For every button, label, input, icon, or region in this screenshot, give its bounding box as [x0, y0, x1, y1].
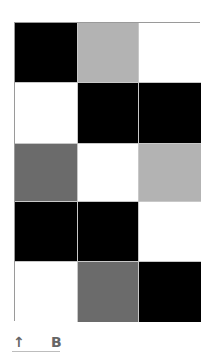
grid-cell-4-1[interactable] [78, 262, 139, 322]
grid-cell-3-1[interactable] [78, 202, 139, 262]
grid-cell-1-1[interactable] [78, 83, 139, 144]
grid-cell-2-0[interactable] [15, 144, 78, 202]
grid-cell-0-0[interactable] [15, 23, 78, 83]
grid-cell-0-1[interactable] [78, 23, 139, 83]
grid-cell-2-1[interactable] [78, 144, 139, 202]
grid-cell-4-0[interactable] [15, 262, 78, 322]
grid-cell-3-0[interactable] [15, 202, 78, 262]
footer-underline [12, 351, 60, 352]
footer-label: B [51, 334, 62, 350]
up-arrow-icon[interactable]: ↑ [13, 334, 25, 350]
grid-cell-1-0[interactable] [15, 83, 78, 144]
grid-cell-0-2[interactable] [139, 23, 201, 83]
color-grid [14, 22, 200, 321]
grid-cell-2-2[interactable] [139, 144, 201, 202]
grid-cell-4-2[interactable] [139, 262, 201, 322]
grid-cell-3-2[interactable] [139, 202, 201, 262]
footer-control[interactable]: ↑ B [12, 334, 62, 353]
grid-cell-1-2[interactable] [139, 83, 201, 144]
